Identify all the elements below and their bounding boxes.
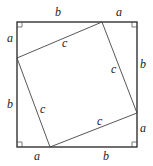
- label-right-b: b: [140, 57, 146, 71]
- label-inner-bottom-c: c: [97, 114, 103, 128]
- outer-square: [17, 22, 137, 147]
- right-angle-top-right: [132, 22, 137, 27]
- label-inner-right-c: c: [111, 62, 117, 76]
- pythagorean-diagram: b a a b b a a b c c c c: [0, 0, 153, 166]
- right-angle-bottom-right: [132, 142, 137, 147]
- label-right-a: a: [140, 121, 146, 135]
- label-bottom-b: b: [103, 149, 109, 163]
- label-top-b: b: [55, 5, 61, 19]
- label-left-b: b: [7, 97, 13, 111]
- label-inner-left-c: c: [40, 102, 46, 116]
- inner-square: [17, 22, 137, 147]
- label-bottom-a: a: [34, 149, 40, 163]
- right-angle-bottom-left: [17, 142, 22, 147]
- label-top-a: a: [116, 5, 122, 19]
- label-left-a: a: [7, 31, 13, 45]
- label-inner-top-c: c: [62, 36, 68, 50]
- right-angle-top-left: [17, 22, 22, 27]
